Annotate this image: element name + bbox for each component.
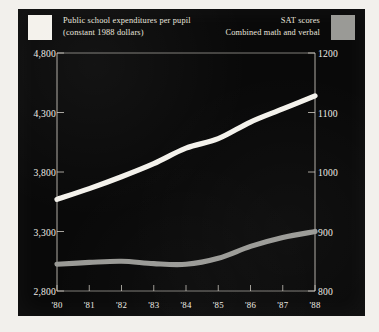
chart-plate: Public school expenditures per pupil (co…	[18, 9, 365, 316]
plot-svg	[18, 9, 365, 316]
x-axis: '80'81'82'83'84'85'86'87'88	[18, 296, 365, 316]
x-tick: '86	[245, 300, 256, 310]
x-tick: '80	[52, 300, 63, 310]
y-axis-right: 120011001000900800	[318, 9, 362, 316]
y-axis-left: 4,8004,3003,8003,3002,800	[20, 9, 56, 316]
y-right-tick: 1000	[318, 167, 338, 178]
y-right-tick: 900	[318, 226, 333, 237]
y-left-tick: 4,800	[33, 48, 56, 59]
chart-screenshot: Public school expenditures per pupil (co…	[0, 0, 379, 332]
x-tick: '84	[181, 300, 192, 310]
x-tick: '82	[116, 300, 127, 310]
x-tick: '87	[277, 300, 288, 310]
x-tick: '81	[84, 300, 95, 310]
y-left-tick: 3,800	[33, 167, 56, 178]
y-right-tick: 1100	[318, 107, 338, 118]
y-left-tick: 3,300	[33, 226, 56, 237]
y-right-tick: 800	[318, 286, 333, 297]
chart-area: 4,8004,3003,8003,3002,800 12001100100090…	[18, 9, 365, 316]
x-tick: '85	[213, 300, 224, 310]
y-left-tick: 4,300	[33, 107, 56, 118]
x-tick: '83	[148, 300, 159, 310]
y-right-tick: 1200	[318, 48, 338, 59]
y-left-tick: 2,800	[33, 286, 56, 297]
x-tick: '88	[310, 300, 321, 310]
